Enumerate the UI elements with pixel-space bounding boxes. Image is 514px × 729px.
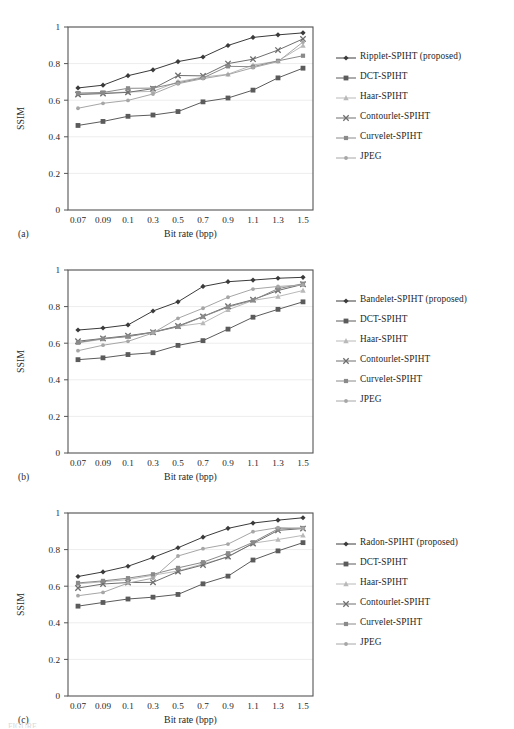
legend-item[interactable]: Radon-SPIHT (proposed) xyxy=(336,532,514,552)
legend-marker-cross-icon xyxy=(336,353,356,365)
data-point-dot xyxy=(76,594,80,598)
data-point-diamond xyxy=(150,67,155,72)
y-tick-label: 1 xyxy=(55,265,60,275)
series-line xyxy=(78,68,303,125)
legend-item[interactable]: JPEG xyxy=(336,146,514,166)
legend-item[interactable]: JPEG xyxy=(336,632,514,652)
data-point-diamond xyxy=(200,54,205,59)
data-point-dot xyxy=(251,530,255,534)
legend-item[interactable]: DCT-SPIHT xyxy=(336,552,514,572)
data-point-dot xyxy=(276,60,280,64)
series-line xyxy=(78,291,303,343)
legend-marker-square-icon xyxy=(336,313,356,325)
legend-label: Curvelet-SPIHT xyxy=(360,374,422,384)
data-point-cross xyxy=(275,47,280,52)
figure-caption-fragment: FIGURE xyxy=(8,722,37,728)
data-point-square-sm xyxy=(76,581,80,585)
data-point-dot xyxy=(226,542,230,546)
panel-label-a: (a) xyxy=(18,229,29,239)
y-tick-label: 1 xyxy=(55,508,60,518)
data-point-square-sm xyxy=(344,379,348,383)
data-point-square-sm xyxy=(76,91,80,95)
series-line xyxy=(78,528,303,583)
x-tick-label: 1.1 xyxy=(247,215,259,225)
legend-marker-dot-icon xyxy=(336,150,356,162)
data-point-dot xyxy=(126,581,130,585)
legend-item[interactable]: Haar-SPIHT xyxy=(336,86,514,106)
y-tick-label: 0.2 xyxy=(49,169,61,179)
data-point-square xyxy=(201,338,206,343)
x-tick-label: 0.3 xyxy=(147,458,159,468)
x-tick-label: 1.5 xyxy=(297,458,309,468)
data-point-square-sm xyxy=(226,551,230,555)
data-point-square-sm xyxy=(201,560,205,564)
data-point-square xyxy=(101,355,106,360)
data-point-triangle xyxy=(300,288,305,293)
data-point-square xyxy=(176,343,181,348)
data-point-dot xyxy=(101,591,105,595)
data-point-square xyxy=(251,88,256,93)
data-point-diamond xyxy=(150,308,155,313)
legend-marker-cross-icon xyxy=(336,596,356,608)
y-tick-label: 0.4 xyxy=(49,375,61,385)
x-tick-label: 0.3 xyxy=(147,215,159,225)
y-tick-label: 0.8 xyxy=(49,59,61,69)
legend-label: Haar-SPIHT xyxy=(360,577,408,587)
legend-marker-dot-icon xyxy=(336,636,356,648)
data-point-diamond xyxy=(125,73,130,78)
data-point-dot xyxy=(226,73,230,77)
data-point-diamond xyxy=(250,35,255,40)
series-line xyxy=(78,42,303,108)
data-point-dot xyxy=(251,66,255,70)
y-tick-label: 0.2 xyxy=(49,655,61,665)
data-point-square-sm xyxy=(126,335,130,339)
legend-item[interactable]: Haar-SPIHT xyxy=(336,572,514,592)
y-tick-label: 0.6 xyxy=(49,582,61,592)
legend-item[interactable]: Contourlet-SPIHT xyxy=(336,592,514,612)
data-point-square-sm xyxy=(126,576,130,580)
y-tick-label: 0 xyxy=(55,448,60,458)
data-point-diamond xyxy=(300,275,305,280)
y-tick-label: 0.4 xyxy=(49,132,61,142)
x-axis-label: Bit rate (bpp) xyxy=(164,228,217,240)
chart-panel-b: 00.20.40.60.81SSIM0.070.090.10.30.50.70.… xyxy=(0,243,514,486)
data-point-square-sm xyxy=(76,340,80,344)
x-tick-label: 0.1 xyxy=(122,215,134,225)
legend-item[interactable]: Curvelet-SPIHT xyxy=(336,369,514,389)
legend-item[interactable]: DCT-SPIHT xyxy=(336,66,514,86)
legend-marker-diamond-icon xyxy=(336,50,356,62)
legend-item[interactable]: Haar-SPIHT xyxy=(336,329,514,349)
x-tick-label: 0.7 xyxy=(197,215,209,225)
x-tick-label: 1.1 xyxy=(247,458,259,468)
legend-item[interactable]: Ripplet-SPIHT (proposed) xyxy=(336,46,514,66)
x-tick-label: 0.09 xyxy=(95,701,111,711)
y-tick-label: 0.8 xyxy=(49,545,61,555)
data-point-dot xyxy=(301,40,305,44)
legend-item[interactable]: Contourlet-SPIHT xyxy=(336,106,514,126)
y-axis-label: SSIM xyxy=(15,593,26,616)
y-tick-label: 1 xyxy=(55,22,60,32)
data-point-dot xyxy=(201,547,205,551)
data-point-dot xyxy=(276,285,280,289)
data-point-diamond xyxy=(225,526,230,531)
data-point-dot xyxy=(126,98,130,102)
data-point-dot xyxy=(151,331,155,335)
legend-item[interactable]: Curvelet-SPIHT xyxy=(336,612,514,632)
y-tick-label: 0 xyxy=(55,205,60,215)
legend-item[interactable]: Curvelet-SPIHT xyxy=(336,126,514,146)
legend-marker-cross-icon xyxy=(336,110,356,122)
data-point-square xyxy=(226,574,231,579)
x-tick-label: 1.3 xyxy=(272,215,284,225)
legend-item[interactable]: DCT-SPIHT xyxy=(336,309,514,329)
data-point-dot xyxy=(176,554,180,558)
legend-item[interactable]: Bandelet-SPIHT (proposed) xyxy=(336,289,514,309)
data-point-square xyxy=(276,75,281,80)
legend-item[interactable]: Contourlet-SPIHT xyxy=(336,349,514,369)
data-point-diamond xyxy=(300,30,305,35)
legend-item[interactable]: JPEG xyxy=(336,389,514,409)
legend-marker-triangle-icon xyxy=(336,333,356,345)
legend-marker-square-sm-icon xyxy=(336,616,356,628)
data-point-square-sm xyxy=(176,566,180,570)
legend-b: Bandelet-SPIHT (proposed) DCT-SPIHT Haar… xyxy=(336,289,514,409)
legend-label: Contourlet-SPIHT xyxy=(360,354,430,364)
